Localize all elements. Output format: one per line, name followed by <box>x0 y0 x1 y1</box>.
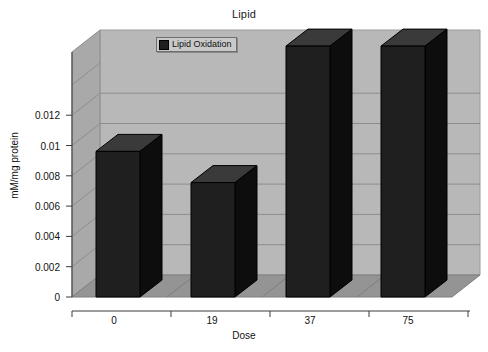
bar-dose-19[interactable] <box>191 166 257 297</box>
x-axis-title: Dose <box>0 330 488 341</box>
y-axis-ticks <box>66 115 72 297</box>
bar-side-face <box>140 134 162 297</box>
bar-side-face <box>235 166 257 297</box>
x-tick-label-19: 19 <box>182 315 242 326</box>
bar-side-face <box>425 29 447 297</box>
bar-dose-37[interactable] <box>286 29 352 297</box>
y-tick-label-0004: 0.004 <box>8 231 60 242</box>
x-tick-label-75: 75 <box>378 315 438 326</box>
bar-front-face <box>191 183 235 297</box>
x-tick-label-37: 37 <box>280 315 340 326</box>
chart-canvas <box>0 0 488 352</box>
legend-swatch-icon <box>159 40 169 50</box>
bar-dose-75[interactable] <box>381 29 447 297</box>
y-axis-title: mM/mg protein <box>9 106 20 226</box>
y-tick-label-0: 0 <box>8 292 60 303</box>
x-tick-label-0: 0 <box>84 315 144 326</box>
bar-front-face <box>96 151 140 297</box>
legend[interactable]: Lipid Oxidation <box>156 37 237 52</box>
legend-item-label: Lipid Oxidation <box>172 39 232 50</box>
bar-side-face <box>330 29 352 297</box>
plot-area: 0 0.002 0.004 0.006 0.008 0.01 0.012 0 1… <box>0 0 488 352</box>
bar-dose-0[interactable] <box>96 134 162 297</box>
chart-container: Lipid <box>0 0 488 352</box>
bar-front-face <box>381 46 425 297</box>
y-tick-label-0002: 0.002 <box>8 261 60 272</box>
bar-front-face <box>286 46 330 297</box>
